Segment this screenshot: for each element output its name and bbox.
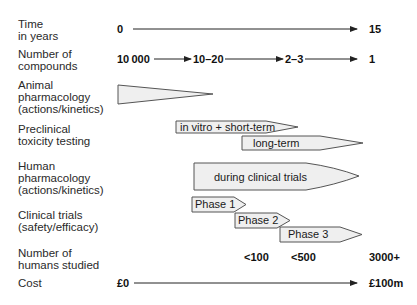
compounds-value-1: 10 000 bbox=[117, 53, 150, 65]
cost-start: £0 bbox=[117, 277, 129, 289]
phase-2-label: Phase 2 bbox=[238, 214, 278, 226]
cost-end: £100m bbox=[369, 277, 403, 289]
during-clinical-trials-label: during clinical trials bbox=[214, 171, 307, 183]
compounds-value-4: 1 bbox=[369, 53, 375, 65]
humans-value-1: <100 bbox=[244, 251, 269, 263]
phase-3-label: Phase 3 bbox=[288, 228, 328, 240]
diagram-canvas bbox=[0, 0, 417, 305]
in-vitro-short-term-label: in vitro + short-term bbox=[180, 121, 275, 133]
phase-1-label: Phase 1 bbox=[195, 198, 235, 210]
animal-pharmacology-wedge bbox=[118, 85, 213, 104]
compounds-value-2: 10–20 bbox=[193, 53, 224, 65]
humans-value-3: 3000+ bbox=[369, 251, 400, 263]
time-start: 0 bbox=[117, 23, 123, 35]
long-term-label: long-term bbox=[253, 137, 299, 149]
time-end: 15 bbox=[369, 23, 381, 35]
humans-value-2: <500 bbox=[291, 251, 316, 263]
compounds-value-3: 2–3 bbox=[285, 53, 303, 65]
